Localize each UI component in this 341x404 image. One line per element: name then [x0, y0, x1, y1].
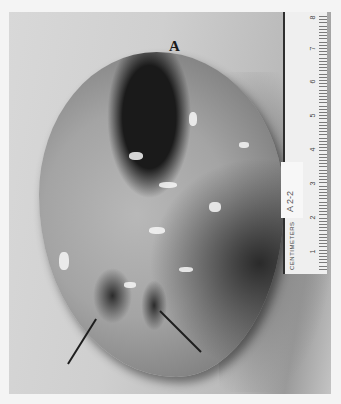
ruler-number: 1: [310, 250, 317, 254]
glare-highlight: [59, 252, 69, 270]
glare-highlight: [159, 182, 177, 188]
glare-highlight: [149, 227, 165, 234]
ruler-number: 5: [310, 114, 317, 118]
panel-label: A: [169, 38, 180, 55]
glare-highlight: [179, 267, 193, 272]
ruler-number: 6: [310, 80, 317, 84]
glare-highlight: [129, 152, 143, 160]
ruler-tag-text: A 2-2: [285, 191, 295, 212]
specimen: [39, 52, 284, 377]
glare-highlight: [124, 282, 136, 288]
glare-highlight: [189, 112, 197, 126]
ruler-number: 8: [310, 16, 317, 20]
ruler-number: 2: [310, 216, 317, 220]
ruler-number: 4: [310, 148, 317, 152]
centimeter-ruler: 1 2 3 4 5 6 7 8 A 2-2 CENTIMETERS: [283, 12, 327, 274]
glare-highlight: [239, 142, 249, 148]
ruler-units-label: CENTIMETERS: [289, 221, 295, 270]
glare-highlight: [209, 202, 221, 212]
ruler-number: 3: [310, 182, 317, 186]
ruler-number: 7: [310, 47, 317, 51]
ruler-ticks: [319, 16, 327, 270]
